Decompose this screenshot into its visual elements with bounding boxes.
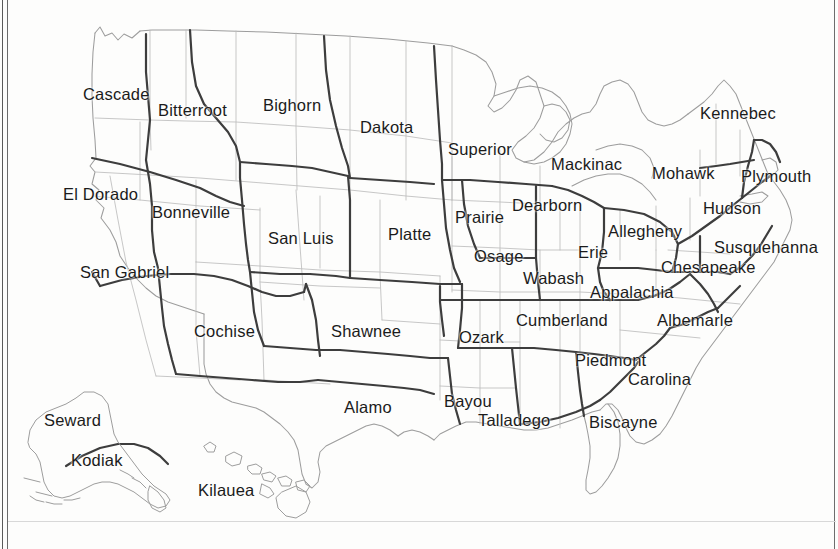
region-label-piedmont: Piedmont: [575, 352, 646, 369]
region-label-bitterroot: Bitterroot: [158, 102, 227, 119]
region-label-bayou: Bayou: [444, 393, 492, 410]
region-label-shawnee: Shawnee: [331, 323, 401, 340]
region-label-dakota: Dakota: [360, 119, 413, 136]
region-label-appalachia: Appalachia: [590, 284, 674, 301]
region-label-cumberland: Cumberland: [516, 312, 608, 329]
region-label-susquehanna: Susquehanna: [714, 239, 818, 256]
region-label-cochise: Cochise: [194, 323, 255, 340]
region-label-mohawk: Mohawk: [652, 165, 715, 182]
region-label-kodiak: Kodiak: [71, 452, 123, 469]
region-label-kennebec: Kennebec: [700, 105, 776, 122]
region-label-bighorn: Bighorn: [263, 97, 321, 114]
region-label-allegheny: Allegheny: [608, 223, 682, 240]
region-label-dearborn: Dearborn: [512, 197, 582, 214]
region-label-albemarle: Albemarle: [657, 312, 733, 329]
region-label-osage: Osage: [474, 248, 524, 265]
region-label-mackinac: Mackinac: [551, 156, 622, 173]
region-label-biscayne: Biscayne: [589, 414, 658, 431]
region-label-seward: Seward: [44, 412, 101, 429]
region-label-bonneville: Bonneville: [152, 204, 230, 221]
region-label-san-gabriel: San Gabriel: [80, 264, 169, 281]
region-label-hudson: Hudson: [703, 200, 761, 217]
region-label-cascade: Cascade: [83, 86, 150, 103]
region-label-el-dorado: El Dorado: [63, 186, 138, 203]
region-label-erie: Erie: [578, 244, 608, 261]
region-label-prairie: Prairie: [455, 209, 504, 226]
region-label-kilauea: Kilauea: [198, 482, 254, 499]
region-label-superior: Superior: [448, 141, 512, 158]
region-label-talladego: Talladego: [478, 412, 550, 429]
region-label-platte: Platte: [388, 226, 431, 243]
region-label-alamo: Alamo: [344, 399, 392, 416]
region-label-ozark: Ozark: [459, 329, 504, 346]
region-label-san-luis: San Luis: [268, 230, 334, 247]
region-label-layer: Cascade Bitterroot Bighorn Dakota Superi…: [0, 0, 838, 549]
region-label-wabash: Wabash: [523, 270, 584, 287]
region-label-chesapeake: Chesapeake: [661, 259, 756, 276]
map-canvas: Cascade Bitterroot Bighorn Dakota Superi…: [0, 0, 838, 549]
region-label-carolina: Carolina: [628, 371, 691, 388]
region-label-plymouth: Plymouth: [741, 168, 811, 185]
